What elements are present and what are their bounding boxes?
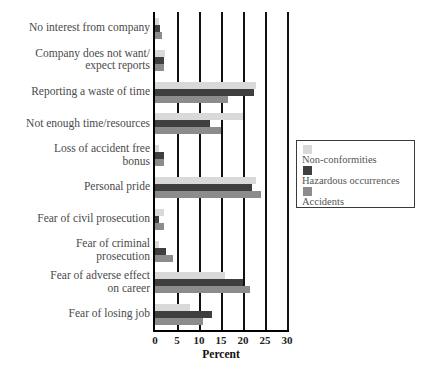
category-label-line: bonus xyxy=(0,155,150,168)
bar-group xyxy=(155,50,287,71)
bar-group xyxy=(155,145,287,166)
x-axis-title: Percent xyxy=(155,348,287,360)
bar xyxy=(155,209,164,216)
bar xyxy=(155,64,164,71)
category-label: Fear of criminalprosecution xyxy=(0,237,150,263)
bar xyxy=(155,304,190,311)
category-label-line: Fear of criminal xyxy=(0,237,150,250)
x-tick-15: 15 xyxy=(216,334,227,346)
category-label-line: on career xyxy=(0,282,150,295)
bar-chart: No interest from companyCompany does not… xyxy=(0,0,425,372)
bar-group xyxy=(155,209,287,230)
category-label: Fear of civil prosecution xyxy=(0,212,150,225)
x-tick-5: 5 xyxy=(174,334,180,346)
bar xyxy=(155,191,261,198)
bar xyxy=(155,286,250,293)
bar xyxy=(155,241,159,248)
bar xyxy=(155,318,203,325)
bar-group xyxy=(155,177,287,198)
category-label: Fear of adverse effecton career xyxy=(0,269,150,295)
bar xyxy=(155,50,165,57)
bar xyxy=(155,127,221,134)
medium-gray-swatch xyxy=(303,187,312,196)
dark-gray-swatch xyxy=(303,166,312,175)
category-label-line: Not enough time/resources xyxy=(0,117,150,130)
x-axis-line xyxy=(153,330,289,332)
category-label-line: Loss of accident free xyxy=(0,142,150,155)
category-axis-labels: No interest from companyCompany does not… xyxy=(0,0,152,372)
bar-group xyxy=(155,304,287,325)
category-label-line: Fear of civil prosecution xyxy=(0,212,150,225)
bar xyxy=(155,311,212,318)
bar-group xyxy=(155,113,287,134)
bar xyxy=(155,216,159,223)
category-label: Company does not want/expect reports xyxy=(0,47,150,73)
bar xyxy=(155,279,243,286)
bar xyxy=(155,223,164,230)
bar xyxy=(155,89,254,96)
bar xyxy=(155,96,228,103)
bar xyxy=(155,120,210,127)
category-label: Reporting a waste of time xyxy=(0,85,150,98)
x-tick-0: 0 xyxy=(152,334,158,346)
category-label-line: Reporting a waste of time xyxy=(0,85,150,98)
bar xyxy=(155,184,252,191)
category-label: Not enough time/resources xyxy=(0,117,150,130)
bar-group xyxy=(155,82,287,103)
x-tick-10: 10 xyxy=(194,334,205,346)
bar xyxy=(155,159,164,166)
gridline-30 xyxy=(287,12,289,330)
bar xyxy=(155,18,159,25)
bar xyxy=(155,145,159,152)
legend-label: Hazardous occurrences xyxy=(302,175,409,186)
bar xyxy=(155,272,225,279)
bar xyxy=(155,248,166,255)
category-label-line: No interest from company xyxy=(0,21,150,34)
light-gray-swatch xyxy=(303,145,312,154)
bar xyxy=(155,82,256,89)
category-label: No interest from company xyxy=(0,21,150,34)
category-label-line: Fear of losing job xyxy=(0,307,150,320)
bar-group xyxy=(155,241,287,262)
legend-item-hazardous-occurrences: Hazardous occurrences xyxy=(302,166,409,186)
legend-label: Non-conformities xyxy=(302,154,409,165)
category-label: Loss of accident freebonus xyxy=(0,142,150,168)
bar xyxy=(155,177,256,184)
category-label-line: expect reports xyxy=(0,59,150,72)
legend-item-accidents: Accidents xyxy=(302,187,409,207)
bar-group xyxy=(155,272,287,293)
bar xyxy=(155,25,160,32)
bar-group xyxy=(155,18,287,39)
bar xyxy=(155,57,164,64)
bar xyxy=(155,32,162,39)
bar xyxy=(155,113,243,120)
x-tick-20: 20 xyxy=(238,334,249,346)
category-label-line: Fear of adverse effect xyxy=(0,269,150,282)
category-label-line: Company does not want/ xyxy=(0,47,150,60)
x-tick-30: 30 xyxy=(282,334,293,346)
category-label: Personal pride xyxy=(0,180,150,193)
plot-area xyxy=(155,12,287,330)
category-label-line: Personal pride xyxy=(0,180,150,193)
legend-box: Non-conformities Hazardous occurrences A… xyxy=(296,140,415,208)
bar xyxy=(155,152,164,159)
bar xyxy=(155,255,173,262)
legend-label: Accidents xyxy=(302,196,409,207)
category-label-line: prosecution xyxy=(0,250,150,263)
category-label: Fear of losing job xyxy=(0,307,150,320)
legend-item-non-conformities: Non-conformities xyxy=(302,145,409,165)
x-tick-25: 25 xyxy=(260,334,271,346)
